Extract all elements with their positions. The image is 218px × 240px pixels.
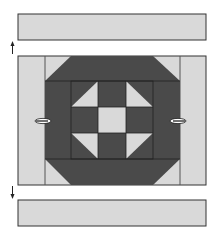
quilt-block — [18, 56, 206, 185]
quilt-assembly-diagram: Quilt block assembly: add top and bottom… — [0, 0, 218, 240]
up-arrow-icon — [11, 41, 15, 54]
left-pin-icon — [35, 118, 51, 123]
down-arrow-icon — [11, 186, 15, 199]
bottom-border-strip — [18, 200, 206, 226]
right-pin-icon — [170, 118, 186, 123]
top-border-strip — [18, 14, 206, 40]
